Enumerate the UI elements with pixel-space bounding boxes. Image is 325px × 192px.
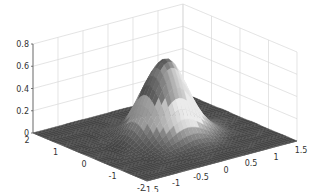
surface-mesh [33,59,297,181]
y-tick-label: 1 [53,148,58,157]
x-tick-label: -1.5 [143,186,159,192]
x-tick-label: 0 [223,166,228,175]
z-tick-label: 0.6 [16,62,29,71]
z-tick-label: 0.8 [16,40,29,49]
z-axis-tick-labels: 00.20.40.60.8 [16,40,33,138]
y-tick-label: 2 [24,136,29,145]
z-tick-label: 0.2 [16,107,29,116]
x-tick-label: 1 [273,153,278,162]
surface-plot: 00.20.40.60.8 -2-1012 -1.5-1-0.500.511.5 [0,0,325,192]
y-tick-label: -1 [109,172,117,181]
x-tick-label: -0.5 [193,173,209,182]
x-tick-label: 1.5 [295,146,308,155]
x-tick-label: -1 [172,179,180,188]
y-tick-label: 0 [81,160,86,169]
x-tick-label: 0.5 [245,159,258,168]
z-tick-label: 0.4 [16,85,29,94]
